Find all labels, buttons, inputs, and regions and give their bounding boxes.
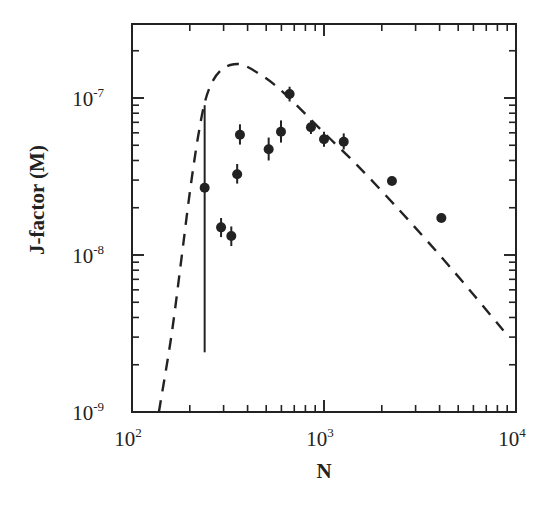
data-point (264, 138, 274, 161)
marker (232, 169, 242, 179)
marker (200, 183, 210, 193)
data-point (235, 124, 245, 144)
marker (235, 130, 245, 140)
data-points (200, 87, 447, 353)
data-point (200, 105, 210, 352)
chart: 102103104 10-910-810-7 N J-factor (M) (0, 0, 558, 507)
data-point (276, 120, 286, 142)
data-point (436, 213, 446, 223)
marker (276, 127, 286, 137)
x-tick-label: 102 (114, 425, 142, 451)
y-tick-labels: 10-910-810-7 (72, 85, 104, 425)
y-tick-label: 10-8 (72, 242, 104, 268)
x-tick-labels: 102103104 (114, 425, 526, 451)
y-tick-label: 10-7 (72, 85, 104, 111)
x-tick-label: 103 (306, 425, 334, 451)
x-axis-label: N (316, 459, 331, 483)
y-tick-label: 10-9 (72, 399, 104, 425)
data-point (216, 218, 226, 237)
data-point (285, 87, 295, 102)
y-axis-label: J-factor (M) (25, 145, 49, 255)
minor-ticks (132, 24, 516, 412)
marker (264, 144, 274, 154)
marker (387, 176, 397, 186)
data-point (339, 133, 349, 149)
marker (216, 222, 226, 232)
marker (285, 89, 295, 99)
model-dashed-curve (159, 64, 504, 412)
marker (319, 134, 329, 144)
major-ticks (132, 24, 516, 412)
data-point (232, 164, 242, 184)
plot-frame (132, 24, 516, 412)
data-point (387, 176, 397, 186)
marker (436, 213, 446, 223)
data-point (319, 132, 329, 147)
marker (339, 137, 349, 147)
marker (306, 122, 316, 132)
x-tick-label: 104 (498, 425, 526, 451)
data-point (226, 226, 236, 246)
marker (226, 231, 236, 241)
